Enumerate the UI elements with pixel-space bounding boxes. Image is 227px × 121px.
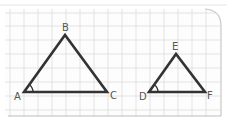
vertex-label-f: F	[207, 90, 213, 101]
vertex-label-a: A	[14, 91, 21, 102]
diagram-canvas: B A C E D F	[0, 0, 227, 121]
vertex-label-b: B	[62, 22, 69, 33]
similar-triangles-figure: B A C E D F	[0, 0, 227, 121]
grid-paper	[0, 0, 227, 121]
vertex-label-d: D	[139, 91, 147, 102]
vertex-label-e: E	[172, 41, 178, 52]
vertex-label-c: C	[110, 90, 117, 101]
